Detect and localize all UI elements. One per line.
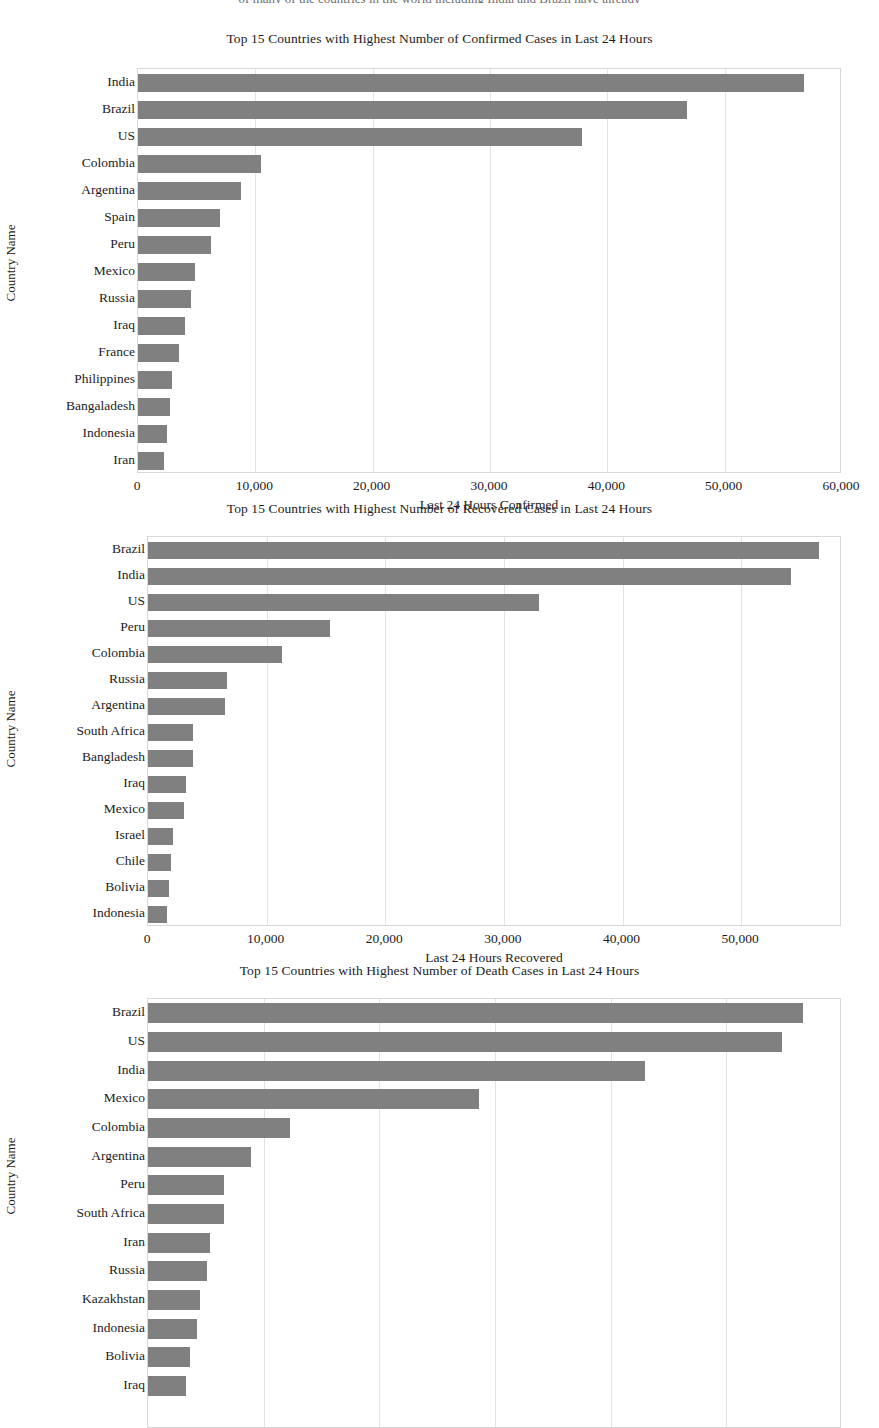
bar bbox=[138, 263, 195, 281]
y-tick-label: Indonesia bbox=[83, 426, 135, 440]
bar bbox=[148, 1175, 224, 1195]
page-top-cut-text: of many of the countries in the world in… bbox=[0, 0, 879, 3]
x-tick-label: 40,000 bbox=[588, 477, 625, 495]
y-tick-label: South Africa bbox=[76, 1206, 145, 1220]
bar bbox=[138, 344, 179, 362]
y-tick-label: Kazakhstan bbox=[82, 1292, 145, 1306]
y-tick-label: Peru bbox=[110, 237, 135, 251]
x-tick-label: 10,000 bbox=[236, 477, 273, 495]
bar bbox=[138, 209, 220, 227]
y-tick-label: Bangladesh bbox=[82, 750, 145, 764]
y-tick-label: Russia bbox=[109, 1264, 145, 1278]
bar bbox=[148, 1204, 224, 1224]
y-tick-label: Iran bbox=[113, 453, 135, 467]
chart-title-confirmed: Top 15 Countries with Highest Number of … bbox=[0, 30, 879, 48]
bar bbox=[138, 182, 241, 200]
x-tick-label: 10,000 bbox=[247, 930, 284, 948]
y-axis-label-confirmed: Country Name bbox=[0, 48, 22, 478]
y-tick-label: US bbox=[118, 129, 135, 143]
y-tick-label: Mexico bbox=[104, 1092, 145, 1106]
y-tick-label: Colombia bbox=[92, 1120, 145, 1134]
y-tick-label: India bbox=[117, 568, 145, 582]
bar bbox=[138, 398, 170, 416]
y-tick-label: Colombia bbox=[82, 156, 135, 170]
y-tick-label: US bbox=[128, 1034, 145, 1048]
plot-area-deaths: Country Name BrazilUSIndiaMexicoColombia… bbox=[0, 980, 879, 1371]
y-tick-label: Iraq bbox=[123, 776, 145, 790]
bar bbox=[148, 1003, 803, 1023]
y-tick-label: Peru bbox=[120, 1178, 145, 1192]
y-tick-label: India bbox=[117, 1063, 145, 1077]
chart-title-deaths: Top 15 Countries with Highest Number of … bbox=[0, 962, 879, 980]
y-tick-label: France bbox=[98, 345, 135, 359]
y-axis-label-deaths: Country Name bbox=[0, 980, 22, 1371]
bar bbox=[148, 1290, 200, 1310]
bar bbox=[148, 802, 184, 819]
bar bbox=[138, 452, 164, 470]
y-tick-label: Bolivia bbox=[105, 880, 145, 894]
gridline bbox=[741, 537, 742, 925]
y-tick-labels-confirmed: IndiaBrazilUSColombiaArgentinaSpainPeruM… bbox=[25, 68, 135, 473]
bar bbox=[148, 1061, 645, 1081]
figure-recovered-cases: Top 15 Countries with Highest Number of … bbox=[0, 500, 879, 962]
y-tick-label: Mexico bbox=[94, 264, 135, 278]
bar bbox=[138, 128, 582, 146]
bar bbox=[148, 698, 225, 715]
x-tick-label: 0 bbox=[144, 930, 151, 948]
axes-deaths bbox=[147, 998, 841, 1428]
y-tick-label: Bolivia bbox=[105, 1350, 145, 1364]
x-tick-labels-recovered: 010,00020,00030,00040,00050,000 bbox=[147, 930, 841, 948]
bar bbox=[148, 750, 193, 767]
y-tick-label: Israel bbox=[115, 828, 145, 842]
y-tick-label: Bangaladesh bbox=[66, 399, 135, 413]
bar bbox=[148, 1347, 190, 1367]
bar bbox=[148, 672, 227, 689]
bar bbox=[138, 317, 185, 335]
y-tick-label: Spain bbox=[104, 210, 135, 224]
bar bbox=[138, 425, 167, 443]
y-tick-label: Brazil bbox=[112, 542, 145, 556]
plot-area-recovered: Country Name BrazilIndiaUSPeruColombiaRu… bbox=[0, 518, 879, 940]
axes-confirmed bbox=[137, 68, 841, 473]
gridline bbox=[725, 69, 726, 472]
y-tick-label: Argentina bbox=[81, 183, 135, 197]
bar bbox=[148, 724, 193, 741]
bar bbox=[148, 828, 173, 845]
y-tick-label: Iraq bbox=[113, 318, 135, 332]
x-tick-label: 30,000 bbox=[470, 477, 507, 495]
bar bbox=[138, 371, 172, 389]
bar bbox=[148, 646, 282, 663]
y-tick-label: Indonesia bbox=[93, 1321, 145, 1335]
y-tick-label: Brazil bbox=[112, 1006, 145, 1020]
bar bbox=[148, 594, 539, 611]
y-tick-label: Indonesia bbox=[93, 906, 145, 920]
bar bbox=[138, 101, 687, 119]
y-tick-label: Chile bbox=[116, 854, 145, 868]
y-tick-label: Colombia bbox=[92, 646, 145, 660]
y-tick-label: Russia bbox=[99, 291, 135, 305]
bar bbox=[138, 74, 804, 92]
bar bbox=[148, 1089, 479, 1109]
gridline bbox=[726, 999, 727, 1427]
axes-recovered bbox=[147, 536, 841, 926]
bar bbox=[148, 1032, 782, 1052]
bar bbox=[138, 236, 211, 254]
bar bbox=[138, 290, 191, 308]
x-tick-label: 50,000 bbox=[722, 930, 759, 948]
x-tick-label: 0 bbox=[134, 477, 141, 495]
bar bbox=[148, 906, 167, 923]
y-tick-label: Brazil bbox=[102, 102, 135, 116]
plot-area-confirmed: Country Name IndiaBrazilUSColombiaArgent… bbox=[0, 48, 879, 478]
x-tick-label: 50,000 bbox=[705, 477, 742, 495]
x-tick-label: 20,000 bbox=[353, 477, 390, 495]
bar bbox=[148, 1376, 186, 1396]
y-tick-label: Peru bbox=[120, 620, 145, 634]
bar bbox=[148, 854, 171, 871]
bar bbox=[148, 1233, 210, 1253]
y-tick-label: Iraq bbox=[123, 1378, 145, 1392]
y-tick-label: Philippines bbox=[74, 372, 135, 386]
x-tick-label: 60,000 bbox=[822, 477, 859, 495]
y-tick-label: Argentina bbox=[91, 1149, 145, 1163]
bar bbox=[148, 1261, 207, 1281]
x-tick-label: 20,000 bbox=[366, 930, 403, 948]
